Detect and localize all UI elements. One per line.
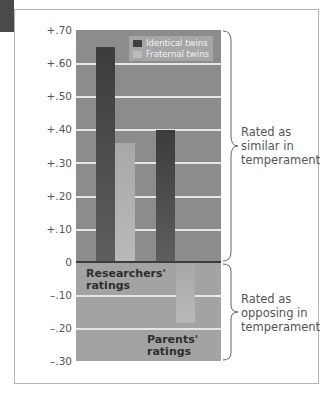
zero-line: [76, 261, 221, 263]
tick-label: +.10: [0, 223, 72, 235]
bar-parents-fraternal: [176, 263, 195, 323]
annotation-line: temperament: [241, 320, 320, 334]
bar-parents-identical: [156, 130, 175, 262]
tick-label: +.60: [0, 57, 72, 69]
legend-swatch-fraternal: [133, 51, 142, 58]
tick-label: 0: [0, 256, 72, 268]
tick-label: +.20: [0, 190, 72, 202]
annotation-line: Rated as: [241, 292, 320, 306]
category-label-parents: Parents' ratings: [147, 334, 198, 358]
annotation-line: Rated as: [241, 125, 320, 139]
gridline: [76, 328, 221, 330]
tick-label: +.70: [0, 24, 72, 36]
annotation-line: temperament: [241, 153, 320, 167]
bar-researchers-identical: [96, 47, 115, 262]
tick-label: –.20: [0, 322, 72, 334]
annotation-opposing: Rated as opposing in temperament: [241, 292, 320, 334]
legend-label: Fraternal twins: [146, 49, 209, 59]
brace-opposing-icon: [221, 263, 241, 362]
category-label-line: ratings: [86, 280, 166, 292]
legend-item-identical: Identical twins: [133, 38, 208, 49]
legend: Identical twins Fraternal twins: [129, 36, 213, 61]
tick-label: +.30: [0, 157, 72, 169]
legend-label: Identical twins: [146, 38, 208, 48]
tick-label: +.40: [0, 123, 72, 135]
gridline: [76, 295, 221, 297]
plot-area: Identical twins Fraternal twins Research…: [76, 30, 221, 361]
annotation-line: similar in: [241, 139, 320, 153]
category-label-researchers: Researchers' ratings: [86, 268, 166, 292]
tick-label: –.10: [0, 289, 72, 301]
category-label-line: ratings: [147, 346, 198, 358]
bar-researchers-fraternal: [115, 143, 135, 262]
annotation-similar: Rated as similar in temperament: [241, 125, 320, 167]
tick-label: –.30: [0, 355, 72, 367]
tick-label: +.50: [0, 90, 72, 102]
brace-similar-icon: [221, 30, 241, 263]
legend-item-fraternal: Fraternal twins: [133, 49, 209, 60]
legend-swatch-identical: [133, 40, 142, 47]
annotation-line: opposing in: [241, 306, 320, 320]
